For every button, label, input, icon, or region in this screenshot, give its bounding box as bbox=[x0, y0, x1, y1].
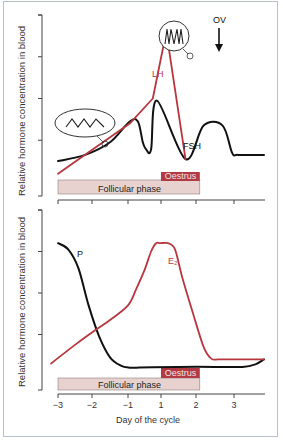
x-tick-label: 1 bbox=[158, 400, 163, 410]
top-panel: Relative hormone concentration in blood … bbox=[16, 15, 265, 204]
bottom-panel: Relative hormone concentration in blood … bbox=[16, 210, 265, 425]
e2-label: E₂ bbox=[168, 256, 178, 266]
x-tick-label: 3 bbox=[231, 400, 236, 410]
bottom-y-axis-label: Relative hormone concentration in blood bbox=[16, 217, 27, 387]
bottom-y-axis bbox=[38, 210, 42, 390]
lh-pulse-inset-low-frequency bbox=[55, 109, 115, 147]
p-label: P bbox=[77, 249, 83, 259]
top-y-ticks bbox=[38, 15, 42, 140]
x-tick-label: −2 bbox=[87, 400, 97, 410]
bottom-follicular-phase-label: Follicular phase bbox=[98, 380, 161, 390]
top-y-axis-label: Relative hormone concentration in blood bbox=[16, 26, 27, 196]
top-y-axis bbox=[38, 15, 42, 196]
ov-label: OV bbox=[213, 15, 226, 25]
lh-label: LH bbox=[152, 69, 164, 79]
bottom-x-ticks: −3−2−1123 bbox=[53, 394, 237, 410]
x-axis-label: Day of the cycle bbox=[116, 415, 180, 425]
e2-line bbox=[51, 243, 264, 364]
top-follicular-phase-label: Follicular phase bbox=[98, 184, 161, 194]
x-tick-label: −1 bbox=[123, 400, 133, 410]
bottom-oestrus-label: Oestrus bbox=[165, 368, 197, 378]
x-tick-label: 2 bbox=[193, 400, 198, 410]
bottom-y-ticks bbox=[38, 210, 42, 335]
x-tick-label: −3 bbox=[53, 400, 63, 410]
top-x-ticks bbox=[58, 200, 234, 204]
lh-line bbox=[58, 32, 186, 174]
p-line bbox=[58, 243, 264, 368]
lh-pulse-inset-high-frequency bbox=[159, 21, 193, 59]
fsh-label: FSH bbox=[183, 141, 201, 151]
top-oestrus-label: Oestrus bbox=[165, 171, 197, 181]
hormone-chart: Relative hormone concentration in blood … bbox=[0, 0, 283, 440]
ov-arrow-icon bbox=[215, 28, 223, 52]
